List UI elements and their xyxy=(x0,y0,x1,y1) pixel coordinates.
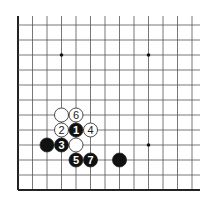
white-stone xyxy=(55,108,69,122)
star-point-icon xyxy=(147,53,151,57)
white-stone xyxy=(69,138,83,152)
move-number-label: 2 xyxy=(58,124,64,136)
white-stone-6: 6 xyxy=(69,108,83,122)
move-number-label: 7 xyxy=(87,154,93,166)
black-stone-1: 1 xyxy=(69,123,83,137)
white-stone-2: 2 xyxy=(55,123,69,137)
move-number-label: 3 xyxy=(58,139,64,151)
move-number-label: 4 xyxy=(87,124,93,136)
grid-lines xyxy=(18,16,200,190)
white-stone-icon xyxy=(69,138,83,152)
black-stone-7: 7 xyxy=(84,153,98,167)
move-number-label: 5 xyxy=(73,154,79,166)
black-stone-3: 3 xyxy=(55,138,69,152)
black-stone xyxy=(113,153,127,167)
move-number-label: 1 xyxy=(73,124,79,136)
black-stone xyxy=(40,138,54,152)
stones: 6214357 xyxy=(40,108,127,167)
white-stone-4: 4 xyxy=(84,123,98,137)
move-number-label: 6 xyxy=(73,109,79,121)
black-stone-icon xyxy=(113,153,127,167)
black-stone-icon xyxy=(40,138,54,152)
black-stone-5: 5 xyxy=(69,153,83,167)
star-point-icon xyxy=(60,53,64,57)
white-stone-icon xyxy=(55,108,69,122)
star-point-icon xyxy=(147,143,151,147)
go-board: 6214357 xyxy=(0,0,214,203)
